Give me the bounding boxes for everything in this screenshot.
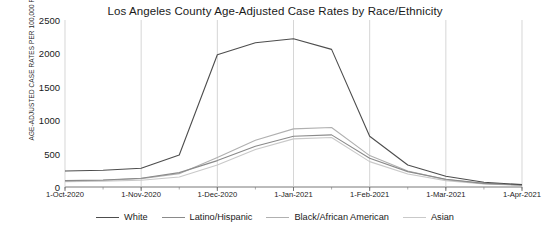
legend-entry-asian[interactable]: Asian bbox=[403, 212, 454, 222]
chart-figure: Los Angeles County Age-Adjusted Case Rat… bbox=[0, 0, 550, 234]
x-tick-label: 1-Oct-2020 bbox=[46, 190, 84, 199]
legend-swatch-black-african-american bbox=[266, 217, 289, 218]
legend-swatch-white bbox=[96, 217, 119, 218]
legend-label-white: White bbox=[124, 212, 148, 222]
y-tick-label: 1500 bbox=[26, 81, 60, 92]
legend-swatch-asian bbox=[403, 217, 426, 218]
legend-label-asian: Asian bbox=[431, 212, 454, 222]
x-tick-label: 1-Apr-2021 bbox=[503, 190, 541, 199]
x-tick-label: 1-Nov-2020 bbox=[121, 190, 161, 199]
legend-label-black-african-american: Black/African American bbox=[294, 212, 388, 222]
y-tick-label: 1000 bbox=[26, 115, 60, 126]
legend-entry-black-african-american[interactable]: Black/African American bbox=[266, 212, 388, 222]
legend-entry-latino-hispanic[interactable]: Latino/Hispanic bbox=[162, 212, 253, 222]
x-tick-label: 1-Jan-2021 bbox=[274, 190, 312, 199]
legend-swatch-latino-hispanic bbox=[162, 217, 185, 218]
y-tick-label: 500 bbox=[26, 148, 60, 159]
y-tick-label: 2000 bbox=[26, 48, 60, 59]
legend-entry-white[interactable]: White bbox=[96, 212, 148, 222]
chart-legend: WhiteLatino/HispanicBlack/African Americ… bbox=[0, 212, 550, 222]
x-tick-label: 1-Feb-2021 bbox=[350, 190, 389, 199]
y-tick-label: 2500 bbox=[26, 15, 60, 26]
legend-label-latino-hispanic: Latino/Hispanic bbox=[190, 212, 253, 222]
x-tick-label: 1-Mar-2021 bbox=[426, 190, 465, 199]
x-tick-label: 1-Dec-2020 bbox=[197, 190, 237, 199]
